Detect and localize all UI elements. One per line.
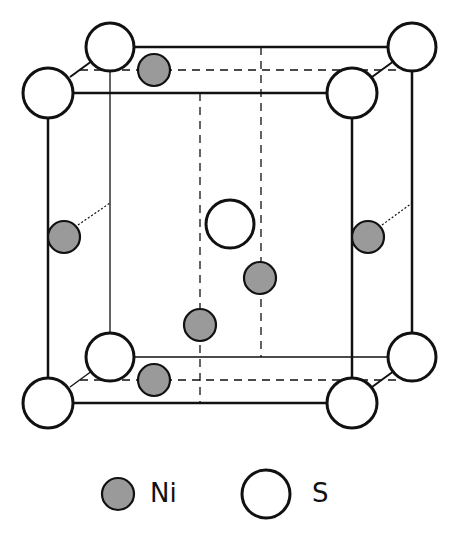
left-dotted bbox=[78, 203, 110, 225]
s-atom bbox=[388, 23, 436, 71]
s-atom bbox=[327, 378, 377, 428]
right-dotted bbox=[382, 203, 412, 225]
s-atom bbox=[23, 378, 73, 428]
s-atom bbox=[86, 23, 134, 71]
s-atom bbox=[388, 333, 436, 381]
ni-atom bbox=[48, 221, 80, 253]
ni-atom bbox=[244, 262, 276, 294]
s-atom bbox=[327, 68, 377, 118]
s-atom bbox=[23, 68, 73, 118]
crystal-structure-diagram bbox=[0, 0, 460, 538]
legend-label-ni: Ni bbox=[150, 478, 177, 508]
s-atom bbox=[86, 333, 134, 381]
legend-s-symbol bbox=[242, 470, 290, 518]
s-atom-center bbox=[206, 200, 254, 248]
ni-atom bbox=[184, 309, 216, 341]
legend-label-s: S bbox=[312, 478, 329, 508]
legend-ni-symbol bbox=[102, 478, 134, 510]
ni-atom bbox=[138, 364, 170, 396]
ni-atom bbox=[352, 221, 384, 253]
ni-atom bbox=[138, 54, 170, 86]
